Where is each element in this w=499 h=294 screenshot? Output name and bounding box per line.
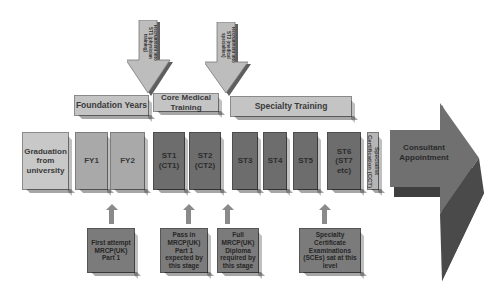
block-fy1: FY1 (75, 132, 108, 190)
consultant-appointment-label: Consultant Appointment (394, 143, 454, 162)
milestone-pass-part1: Pass in MRCP(UK) Part 1 expected by this… (160, 228, 208, 273)
recruitment-arrow-st3: Recruitment into ST3 (medical specialtie… (205, 22, 251, 98)
up-arrow-icon (318, 204, 331, 224)
milestone-full-diploma: Full MRCP(UK) Diploma required by this s… (217, 228, 259, 273)
block-st3: ST3 (232, 132, 258, 190)
stage-specialty-training: Specialty Training (230, 96, 352, 117)
up-arrow-icon (182, 204, 195, 224)
recruitment-arrow-st1: Recruitment into ST1 (physician training… (127, 20, 173, 96)
block-specialist-certification: Specialist Certification (CCT) (367, 132, 379, 190)
block-st6: ST6 (ST7 etc) (327, 132, 361, 190)
milestone-first-attempt: First attempt MRCP(UK) Part 1 (87, 228, 135, 273)
block-st2: ST2 (CT2) (189, 132, 221, 190)
recruitment-arrow-st1-label: Recruitment into ST1 (physician training… (139, 22, 157, 64)
block-st5: ST5 (293, 132, 318, 190)
block-st1: ST1 (CT1) (153, 132, 185, 190)
stage-foundation-years: Foundation Years (74, 95, 149, 116)
up-arrow-icon (105, 204, 118, 224)
milestone-sce: Specialty Certificate Examinations (SCEs… (299, 228, 361, 273)
consultant-appointment-arrow: Consultant Appointment (390, 103, 499, 283)
recruitment-arrow-st3-label: Recruitment into ST3 (medical specialtie… (217, 24, 235, 66)
stage-core-medical-training: Core Medical Training (153, 93, 219, 112)
block-st4: ST4 (263, 132, 287, 190)
right-arrow-icon (390, 103, 499, 283)
block-graduation: Graduation from university (22, 132, 69, 190)
block-fy2: FY2 (110, 132, 145, 190)
up-arrow-icon (221, 204, 234, 224)
